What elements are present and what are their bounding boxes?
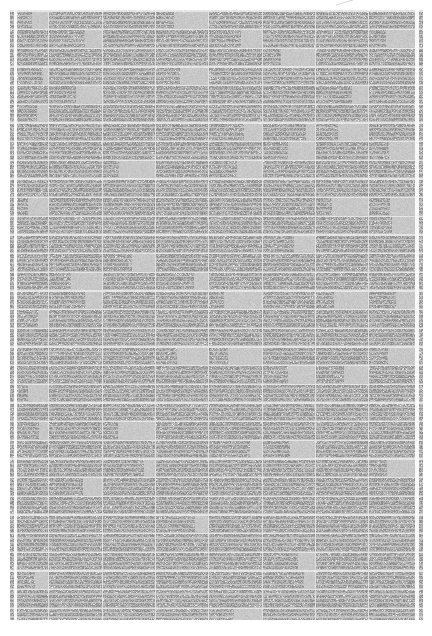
micro-text-document-texture	[0, 0, 432, 636]
page-root	[0, 0, 432, 636]
